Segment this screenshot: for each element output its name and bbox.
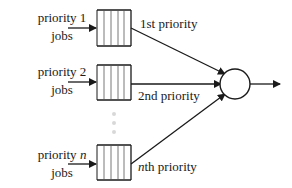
input-label-line2: jobs xyxy=(50,165,73,180)
input-priority-1: priority 1 jobs xyxy=(38,10,96,43)
input-label-line2: jobs xyxy=(50,28,73,43)
ellipsis-dots xyxy=(112,112,116,134)
server-circle-icon xyxy=(220,69,250,99)
input-label-line2: jobs xyxy=(50,82,73,97)
link-arrow-icon xyxy=(131,28,225,74)
input-label-line1: priority 2 xyxy=(38,64,87,79)
queue-2 xyxy=(97,65,131,100)
queue-label-n: nth priority xyxy=(138,159,197,174)
queue-1 xyxy=(97,10,131,46)
link-arrow-icon xyxy=(131,94,225,164)
input-label-line1: priority n xyxy=(38,147,87,162)
input-priority-n: priority n jobs xyxy=(38,147,96,180)
input-label-line1: priority 1 xyxy=(38,10,87,25)
queue-n xyxy=(97,145,131,180)
priority-queue-diagram: priority 1 jobs 1st priority priority 2 … xyxy=(0,0,292,188)
input-priority-2: priority 2 jobs xyxy=(38,64,96,97)
queue-label-1: 1st priority xyxy=(140,16,198,31)
queue-label-2: 2nd priority xyxy=(138,88,200,103)
